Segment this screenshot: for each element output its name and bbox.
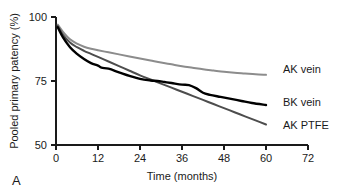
x-tick-label: 60 — [260, 152, 272, 164]
y-axis-ticks: 5075100 — [29, 11, 56, 151]
x-tick-label: 72 — [302, 152, 314, 164]
x-axis-title: Time (months) — [147, 170, 218, 182]
x-tick-label: 48 — [218, 152, 230, 164]
series-line-bk-vein — [58, 27, 266, 105]
x-tick-label: 36 — [176, 152, 188, 164]
y-tick-label: 100 — [29, 11, 47, 23]
series-line-ak-ptfe — [58, 26, 266, 125]
patency-line-chart: 5075100 0122436486072 AK veinBK veinAK P… — [0, 0, 341, 192]
panel-label: A — [12, 173, 21, 188]
data-series-group — [58, 25, 266, 125]
x-tick-label: 12 — [92, 152, 104, 164]
series-label-bk-vein: BK vein — [283, 96, 321, 108]
series-line-ak-vein — [58, 25, 266, 75]
series-labels-group: AK veinBK veinAK PTFE — [283, 63, 329, 131]
series-label-ak-ptfe: AK PTFE — [283, 119, 329, 131]
x-axis-ticks: 0122436486072 — [53, 145, 314, 164]
x-tick-label: 24 — [134, 152, 146, 164]
y-tick-label: 75 — [35, 75, 47, 87]
series-label-ak-vein: AK vein — [283, 63, 321, 75]
x-tick-label: 0 — [53, 152, 59, 164]
y-axis-title: Pooled primary patency (%) — [8, 13, 20, 149]
y-tick-label: 50 — [35, 139, 47, 151]
chart-figure: 5075100 0122436486072 AK veinBK veinAK P… — [0, 0, 341, 192]
